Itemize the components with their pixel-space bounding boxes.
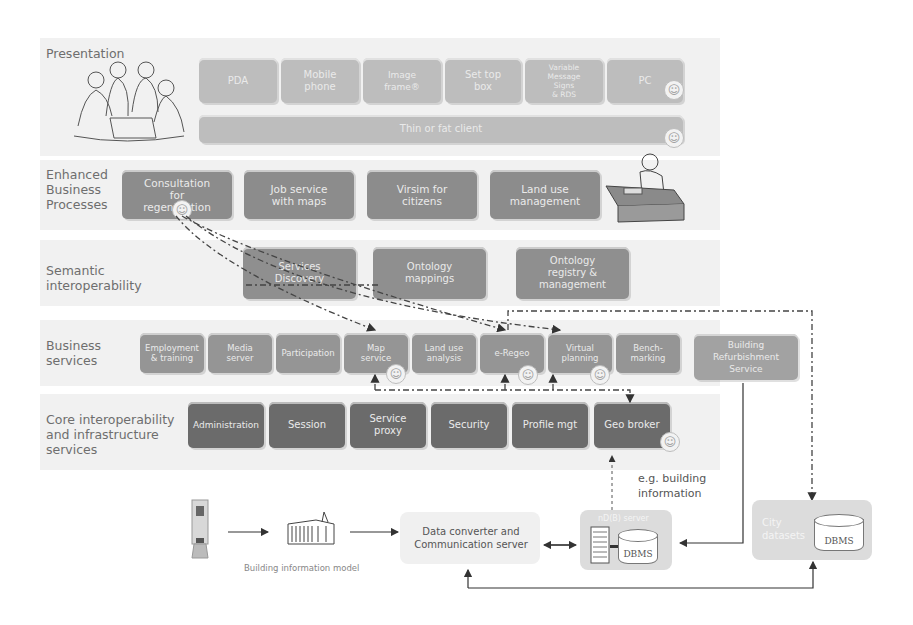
eg-building-information-label: e.g. building information [638, 471, 706, 501]
data-converter-label: Data converter and Communication server [404, 525, 538, 551]
sensor-device-icon [188, 498, 212, 562]
server-rack-icon [590, 526, 610, 564]
building-model-icon [286, 510, 336, 546]
dbms-label: DBMS [623, 549, 652, 559]
dbms-cylinder-city: DBMS [814, 519, 864, 551]
server-link [610, 545, 618, 548]
dbms-label: DBMS [824, 536, 853, 546]
building-information-model-label: Building information model [244, 562, 359, 575]
nd-server-label: nD(B) server [598, 512, 649, 525]
city-datasets-label: City datasets [762, 516, 805, 542]
dbms-cylinder-nd: DBMS [618, 534, 658, 564]
